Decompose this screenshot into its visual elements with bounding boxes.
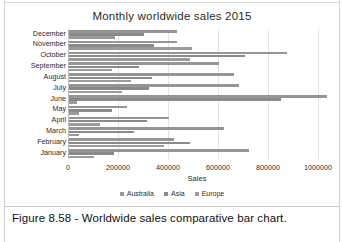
bar-group: November [69,40,326,51]
bar-asia [69,98,281,101]
bar-australia [69,84,239,87]
bar-europe [69,156,94,159]
bar-asia [69,44,154,47]
bar-europe [69,69,112,72]
x-axis-ticks: 02000004000006000008000001000000 [68,161,326,175]
x-tick-label: 400000 [156,163,180,172]
legend-label: Asia [171,190,185,197]
bar-australia [69,106,127,109]
bar-group: July [69,84,326,95]
legend-item-europe[interactable]: Europe [195,190,225,197]
plot-area: JanuaryFebruaryMarchAprilMayJuneJulyAugu… [68,29,326,159]
figure-page: Monthly worldwide sales 2015 JanuaryFebr… [0,0,342,242]
bar-asia [69,142,190,145]
bar-group: December [69,30,326,41]
bar-asia [69,66,139,69]
legend-swatch-icon [195,192,199,196]
bar-asia [69,87,149,90]
bar-australia [69,73,234,76]
category-label: August [44,72,66,83]
x-axis-label: Sales [68,174,326,183]
bar-australia [69,149,249,152]
bar-asia [69,109,112,112]
bar-group: June [69,95,326,106]
bar-europe [69,36,115,39]
figure-caption: Figure 8.58 - Worldwide sales comparativ… [12,212,334,224]
category-label: October [40,50,66,61]
bar-europe [69,134,79,137]
chart-legend: AustraliaAsiaEurope [8,190,336,197]
x-tick-label: 800000 [256,163,280,172]
bar-europe [69,47,192,50]
bar-group: March [69,127,326,138]
x-tick-label: 600000 [206,163,230,172]
category-label: June [50,94,66,105]
bar-group: October [69,51,326,62]
bar-asia [69,152,114,155]
bar-group: May [69,105,326,116]
legend-swatch-icon [164,192,168,196]
bar-australia [69,127,224,130]
chart-title: Monthly worldwide sales 2015 [8,10,336,22]
bar-asia [69,131,134,134]
bar-group: April [69,116,326,127]
bar-group: August [69,73,326,84]
bar-europe [69,101,77,104]
category-label: May [52,104,66,115]
category-label: December [33,29,66,40]
bar-asia [69,120,147,123]
category-label: July [53,83,66,94]
bar-australia [69,117,169,120]
bar-europe [69,145,164,148]
bar-australia [69,52,287,55]
bar-europe [69,58,190,61]
bar-group: January [69,149,326,160]
caption-divider [4,206,340,207]
bar-asia [69,77,152,80]
x-tick-label: 0 [66,163,70,172]
page-border-top [4,2,340,3]
legend-label: Australia [127,190,154,197]
bar-group: February [69,138,326,149]
bar-europe [69,80,131,83]
bar-australia [69,30,177,33]
category-label: April [52,115,66,126]
bar-europe [69,112,79,115]
category-label: September [31,61,66,72]
x-tick-label: 1000000 [304,163,332,172]
category-label: March [46,126,66,137]
bar-europe [69,123,100,126]
bar-europe [69,91,122,94]
bar-rows: JanuaryFebruaryMarchAprilMayJuneJulyAugu… [68,29,326,159]
bar-australia [69,41,177,44]
category-label: November [33,39,66,50]
chart-container: Monthly worldwide sales 2015 JanuaryFebr… [8,4,336,200]
legend-item-australia[interactable]: Australia [120,190,154,197]
bar-asia [69,33,144,36]
bar-australia [69,95,327,98]
bar-australia [69,62,219,65]
category-label: January [40,148,66,159]
legend-swatch-icon [120,192,124,196]
category-label: February [37,137,66,148]
legend-item-asia[interactable]: Asia [164,190,185,197]
bar-group: September [69,62,326,73]
bar-australia [69,138,174,141]
legend-label: Europe [202,190,225,197]
bar-asia [69,55,245,58]
x-tick-label: 200000 [106,163,130,172]
